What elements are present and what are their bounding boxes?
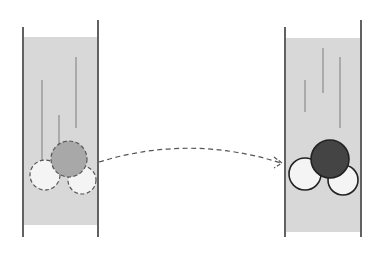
arrow-shaft <box>99 148 281 163</box>
left-tube <box>23 20 98 237</box>
right-tube <box>285 20 361 237</box>
particle-center <box>311 140 349 178</box>
settling-diagram <box>0 0 385 255</box>
fluid-column <box>24 37 97 225</box>
transition-arrow-icon <box>99 148 282 168</box>
particle-center <box>51 141 87 177</box>
